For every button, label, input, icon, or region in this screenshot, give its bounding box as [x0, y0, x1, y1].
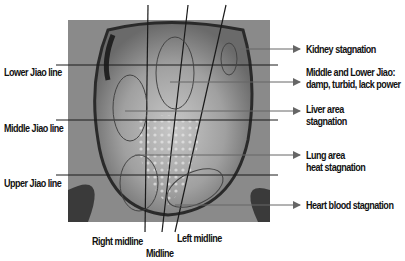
liver-area-ellipse: [113, 75, 147, 141]
kidney-area-ellipse: [221, 43, 237, 75]
left-midline: [175, 5, 226, 232]
kidney-stagnation-label: Kidney stagnation: [306, 43, 376, 55]
heart-area-ellipse: [120, 155, 158, 211]
middle-lower-area-ellipse: [156, 37, 194, 109]
middle-lower-label-line1: Middle and Lower Jiao:: [306, 66, 400, 78]
kidney-label-line1: Kidney stagnation: [306, 43, 376, 55]
lower-jiao-label: Lower Jiao line: [4, 66, 62, 78]
middle-lower-label-line2: damp, turbid, lack power: [306, 78, 400, 90]
lung-area-label: Lung area heat stagnation: [306, 149, 365, 173]
lung-area-ellipse: [161, 161, 229, 215]
heart-blood-label: Heart blood stagnation: [306, 199, 393, 211]
liver-label-line2: stagnation: [306, 115, 347, 127]
middle-lower-jiao-label: Middle and Lower Jiao: damp, turbid, lac…: [306, 66, 400, 90]
heart-label-line1: Heart blood stagnation: [306, 199, 393, 211]
lung-label-line1: Lung area: [306, 149, 365, 161]
lung-label-line2: heat stagnation: [306, 161, 365, 173]
middle-jiao-label: Middle Jiao line: [4, 122, 63, 134]
upper-jiao-label: Upper Jiao line: [4, 177, 61, 189]
midline-label: Midline: [146, 247, 174, 259]
midline: [162, 5, 188, 232]
liver-label-line1: Liver area: [306, 103, 347, 115]
left-midline-label: Left midline: [177, 232, 222, 244]
liver-area-label: Liver area stagnation: [306, 103, 347, 127]
right-midline-label: Right midline: [92, 235, 143, 247]
